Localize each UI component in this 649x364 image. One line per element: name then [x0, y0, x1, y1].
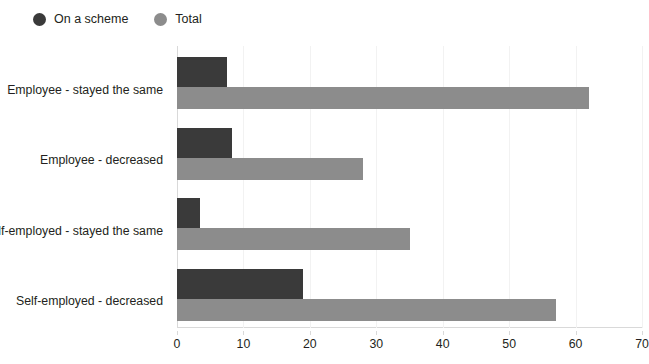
bar-group: [177, 187, 642, 258]
plot-area: [177, 46, 642, 328]
x-axis-tick-label: 70: [635, 337, 649, 351]
legend-label: Total: [175, 13, 201, 26]
gridline: [642, 46, 643, 328]
x-axis-tick: [509, 331, 510, 335]
y-axis-label-employee-decreased: Employee - decreased: [40, 153, 163, 167]
x-axis-tick-label: 60: [569, 337, 583, 351]
legend-swatch-icon: [154, 13, 167, 26]
x-axis-tick: [310, 331, 311, 335]
x-axis-labels: 010203040506070: [177, 331, 642, 353]
bar-total[interactable]: [177, 87, 589, 109]
bar-group: [177, 117, 642, 188]
x-axis-tick: [243, 331, 244, 335]
bar-on-a-scheme[interactable]: [177, 269, 303, 299]
x-axis-tick: [642, 331, 643, 335]
bar-on-a-scheme[interactable]: [177, 198, 200, 228]
legend-item-on-a-scheme[interactable]: On a scheme: [33, 13, 128, 26]
bar-on-a-scheme[interactable]: [177, 128, 232, 158]
x-axis-tick-label: 0: [174, 337, 181, 351]
x-axis-tick: [443, 331, 444, 335]
y-axis-label-employee-stayed-the-same: Employee - stayed the same: [7, 83, 163, 97]
bar-total[interactable]: [177, 299, 556, 321]
y-axis-label-self-employed-decreased: Self-employed - decreased: [16, 294, 163, 308]
chart-legend: On a scheme Total: [33, 8, 202, 30]
bar-on-a-scheme[interactable]: [177, 57, 227, 87]
legend-item-total[interactable]: Total: [154, 13, 201, 26]
x-axis-tick-label: 20: [303, 337, 317, 351]
x-axis-tick: [177, 331, 178, 335]
legend-label: On a scheme: [54, 13, 128, 26]
x-axis-tick: [376, 331, 377, 335]
bar-total[interactable]: [177, 228, 410, 250]
x-axis-tick-label: 10: [237, 337, 251, 351]
y-axis-label-self-employed-stayed-the-same: Self-employed - stayed the same: [0, 224, 163, 238]
legend-swatch-icon: [33, 13, 46, 26]
x-axis-tick-label: 30: [369, 337, 383, 351]
y-axis-labels: Employee - stayed the same Employee - de…: [0, 46, 170, 328]
x-axis-tick: [576, 331, 577, 335]
bar-group: [177, 46, 642, 117]
bar-group: [177, 258, 642, 329]
x-axis-tick-label: 50: [502, 337, 516, 351]
bar-total[interactable]: [177, 158, 363, 180]
x-axis-tick-label: 40: [436, 337, 450, 351]
